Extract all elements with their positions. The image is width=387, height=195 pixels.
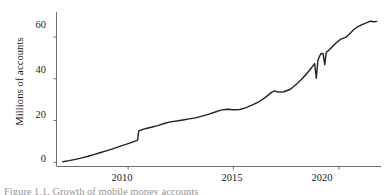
y-tick-label-60: 60	[24, 19, 46, 30]
x-tick-label-2015: 2015	[211, 172, 253, 183]
y-axis-label: Millions of accounts	[14, 17, 25, 147]
plot-area	[0, 0, 387, 195]
x-tick-label-2010: 2010	[101, 172, 143, 183]
figure-caption: Figure 1.1. Growth of mobile money accou…	[4, 186, 198, 195]
x-tick-label-2020: 2020	[301, 172, 343, 183]
chart-figure: Millions of accounts 60 40 20 0 2010 201…	[0, 0, 387, 195]
axes-group	[54, 12, 382, 170]
y-tick-label-40: 40	[24, 64, 46, 75]
y-tick-label-0: 0	[24, 153, 46, 164]
y-tick-label-20: 20	[24, 109, 46, 120]
data-line-accounts	[63, 21, 377, 162]
